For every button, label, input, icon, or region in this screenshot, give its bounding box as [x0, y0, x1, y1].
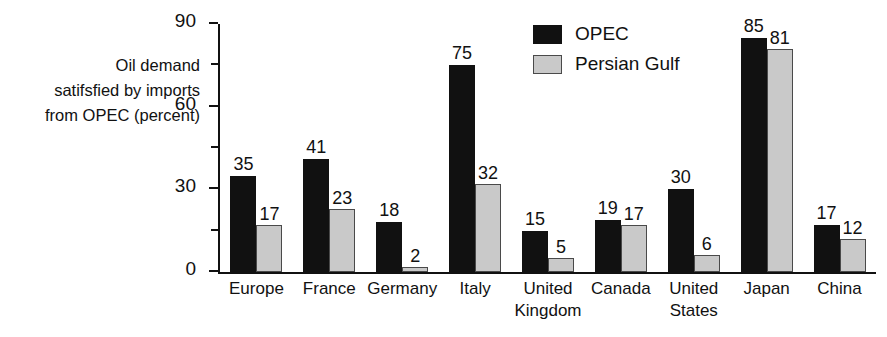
category-label: Italy: [439, 278, 512, 300]
bar-persian-gulf[interactable]: 5: [548, 258, 574, 272]
category-label: China: [803, 278, 876, 300]
legend-item-persian-gulf: Persian Gulf: [533, 49, 680, 79]
bar-persian-gulf[interactable]: 23: [329, 209, 355, 272]
bar-persian-gulf[interactable]: 2: [402, 267, 428, 273]
y-tick-major: 60: [209, 105, 218, 107]
bar-opec[interactable]: 19: [595, 220, 621, 272]
y-tick-major: 30: [209, 187, 218, 189]
bar-value-label: 30: [671, 167, 691, 188]
bar-opec[interactable]: 35: [230, 176, 256, 272]
bar-group: 1712: [814, 24, 866, 272]
bar-value-label: 17: [817, 203, 837, 224]
chart-legend: OPEC Persian Gulf: [533, 19, 680, 79]
legend-swatch-persian-gulf-icon: [533, 55, 562, 74]
bar-chart-figure: Oil demand satifsfied by imports from OP…: [0, 0, 887, 337]
y-tick-major: 90: [209, 22, 218, 24]
bar-value-label: 12: [843, 218, 863, 239]
bar-opec[interactable]: 18: [376, 222, 402, 272]
bar-value-label: 35: [233, 154, 253, 175]
bar-opec[interactable]: 41: [303, 159, 329, 272]
category-label: Europe: [220, 278, 293, 300]
bar-value-label: 32: [478, 163, 498, 184]
y-tick-minor: [211, 229, 218, 231]
legend-swatch-opec-icon: [533, 25, 562, 44]
category-label: Japan: [730, 278, 803, 300]
bar-persian-gulf[interactable]: 17: [621, 225, 647, 272]
bar-persian-gulf[interactable]: 32: [475, 184, 501, 272]
bar-group: 182: [376, 24, 428, 272]
legend-label-persian-gulf: Persian Gulf: [575, 53, 680, 75]
bar-value-label: 18: [379, 200, 399, 221]
y-tick-label: 90: [175, 10, 196, 32]
bar-value-label: 2: [410, 246, 420, 267]
y-tick-major: 0: [209, 270, 218, 272]
bar-persian-gulf[interactable]: 17: [256, 225, 282, 272]
y-tick-label: 30: [175, 175, 196, 197]
bar-persian-gulf[interactable]: 81: [767, 49, 793, 272]
category-label: Canada: [584, 278, 657, 300]
bar-group: 8581: [741, 24, 793, 272]
category-label: United Kingdom: [512, 278, 585, 322]
bar-value-label: 17: [624, 204, 644, 225]
bar-value-label: 6: [702, 234, 712, 255]
category-label: France: [293, 278, 366, 300]
bar-group: 4123: [303, 24, 355, 272]
legend-label-opec: OPEC: [575, 23, 629, 45]
y-tick-label: 60: [175, 93, 196, 115]
bar-value-label: 17: [259, 204, 279, 225]
bar-opec[interactable]: 17: [814, 225, 840, 272]
x-axis-line: [218, 272, 876, 274]
y-tick-minor: [211, 146, 218, 148]
category-label: United States: [657, 278, 730, 322]
bar-opec[interactable]: 75: [449, 65, 475, 272]
bar-persian-gulf[interactable]: 6: [694, 255, 720, 272]
legend-item-opec: OPEC: [533, 19, 680, 49]
bar-value-label: 75: [452, 43, 472, 64]
x-axis-category-labels: EuropeFranceGermanyItalyUnited KingdomCa…: [220, 278, 878, 336]
bar-value-label: 85: [744, 16, 764, 37]
bar-value-label: 81: [770, 28, 790, 49]
y-tick-label: 0: [185, 258, 196, 280]
bar-group: 3517: [230, 24, 282, 272]
bar-opec[interactable]: 30: [668, 189, 694, 272]
bar-value-label: 23: [332, 188, 352, 209]
category-label: Germany: [366, 278, 439, 300]
bar-group: 7532: [449, 24, 501, 272]
y-axis-caption: Oil demand satifsfied by imports from OP…: [10, 53, 200, 128]
bar-value-label: 19: [598, 198, 618, 219]
bar-opec[interactable]: 85: [741, 38, 767, 272]
bar-value-label: 41: [306, 137, 326, 158]
bar-persian-gulf[interactable]: 12: [840, 239, 866, 272]
y-tick-minor: [211, 63, 218, 65]
bar-opec[interactable]: 15: [522, 231, 548, 272]
bar-value-label: 5: [556, 237, 566, 258]
bar-value-label: 15: [525, 209, 545, 230]
